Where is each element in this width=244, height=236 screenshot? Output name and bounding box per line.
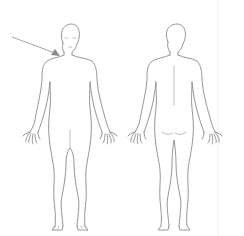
back-right-hand bbox=[202, 132, 222, 144]
front-right-hand bbox=[100, 132, 117, 144]
front-left-hand bbox=[23, 132, 40, 144]
front-right-torso bbox=[77, 82, 91, 230]
back-inner-legs bbox=[167, 140, 181, 226]
back-head bbox=[166, 24, 185, 55]
back-buttocks bbox=[162, 132, 186, 134]
pointer-arrow bbox=[12, 37, 60, 56]
back-right-torso bbox=[179, 82, 193, 230]
arrow-shaft bbox=[12, 37, 55, 53]
body-chart-svg bbox=[0, 0, 244, 236]
back-figure bbox=[128, 24, 222, 230]
back-left-torso bbox=[155, 82, 169, 230]
back-right-side bbox=[178, 55, 215, 132]
body-diagram: Anterior view Posterior view left neck /… bbox=[0, 0, 244, 236]
front-inner-legs bbox=[61, 148, 79, 226]
front-feet bbox=[54, 226, 86, 228]
back-right-inner-arm bbox=[192, 82, 204, 132]
front-left-side bbox=[30, 55, 64, 132]
front-head bbox=[61, 24, 79, 55]
arrow-head-icon bbox=[51, 49, 60, 56]
front-left-torso bbox=[49, 82, 63, 230]
front-left-inner-arm bbox=[38, 82, 50, 132]
back-left-hand bbox=[128, 132, 146, 144]
front-right-inner-arm bbox=[90, 82, 102, 132]
front-figure bbox=[23, 24, 117, 230]
back-left-side bbox=[135, 55, 170, 132]
